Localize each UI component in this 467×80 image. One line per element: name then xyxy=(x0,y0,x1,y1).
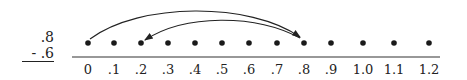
number-line-dot xyxy=(391,40,397,46)
number-line-dot xyxy=(165,40,171,46)
tick-label: 0 xyxy=(84,62,92,77)
number-line-dot xyxy=(138,40,144,46)
tick-label: .7 xyxy=(271,62,283,77)
number-line-dot xyxy=(301,40,307,46)
tick-label: .5 xyxy=(216,62,228,77)
forward-arrow xyxy=(90,11,300,39)
tick-label: .2 xyxy=(135,62,147,77)
number-line-dot xyxy=(192,40,198,46)
tick-label: .6 xyxy=(243,62,255,77)
tick-label: .3 xyxy=(162,62,174,77)
number-line-dot xyxy=(274,40,280,46)
number-line-dot xyxy=(328,40,334,46)
number-line-dot xyxy=(111,40,117,46)
tick-label: .8 xyxy=(298,62,310,77)
tick-label: .9 xyxy=(325,62,337,77)
tick-label: .4 xyxy=(189,62,201,77)
number-line-dot xyxy=(246,40,252,46)
number-line-dots xyxy=(85,40,432,46)
tick-label: 1.1 xyxy=(384,62,405,77)
number-line-dot xyxy=(426,40,432,46)
number-line-dot xyxy=(219,40,225,46)
tick-label: 1.0 xyxy=(353,62,374,77)
number-line-dot xyxy=(85,40,91,46)
number-line-dot xyxy=(360,40,366,46)
tick-label: 1.2 xyxy=(419,62,440,77)
tick-label: .1 xyxy=(108,62,120,77)
backward-arrow xyxy=(145,20,300,40)
